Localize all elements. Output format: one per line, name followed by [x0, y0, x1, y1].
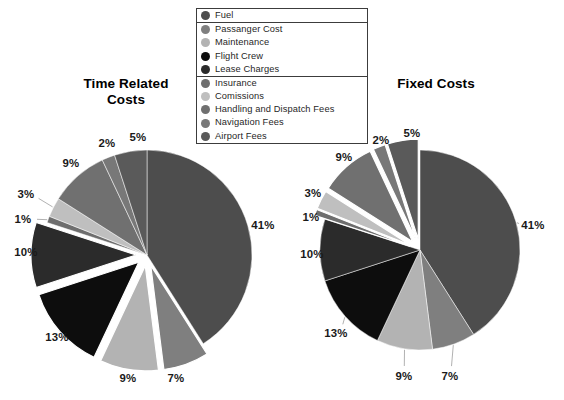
label-leader-line	[39, 198, 53, 207]
pie-slice-value-label: 13%	[324, 327, 347, 339]
chart-canvas: FuelPassanger CostMaintenanceFlight Crew…	[0, 0, 564, 400]
pie-slice-value-label: 2%	[373, 134, 390, 146]
pie-slice-value-label: 2%	[99, 137, 116, 149]
pie-slice-value-label: 3%	[18, 188, 35, 200]
pie-slice-value-label: 9%	[396, 370, 413, 382]
pie-slice-value-label: 10%	[300, 248, 323, 260]
label-leader-line	[517, 223, 519, 224]
pie-slice-value-label: 9%	[120, 372, 137, 384]
pie-charts-svg	[0, 0, 564, 400]
pie-slice-value-label: 7%	[442, 370, 459, 382]
label-leader-line	[452, 345, 454, 366]
pie-slice-value-label: 9%	[336, 151, 353, 163]
pie-slice-value-label: 9%	[63, 157, 80, 169]
pie-slice-value-label: 1%	[15, 213, 32, 225]
pie-slice-value-label: 41%	[521, 219, 544, 231]
pie-slice-value-label: 1%	[303, 211, 320, 223]
pie-slice-value-label: 41%	[251, 219, 274, 231]
pie-slice-value-label: 13%	[45, 331, 68, 343]
pie-slice-value-label: 7%	[168, 372, 185, 384]
pie-slice-value-label: 5%	[404, 127, 421, 139]
pie-slice-value-label: 5%	[130, 131, 147, 143]
label-leader-line	[343, 317, 345, 324]
pie-slice-value-label: 3%	[305, 187, 322, 199]
pie-slice-value-label: 10%	[14, 246, 37, 258]
